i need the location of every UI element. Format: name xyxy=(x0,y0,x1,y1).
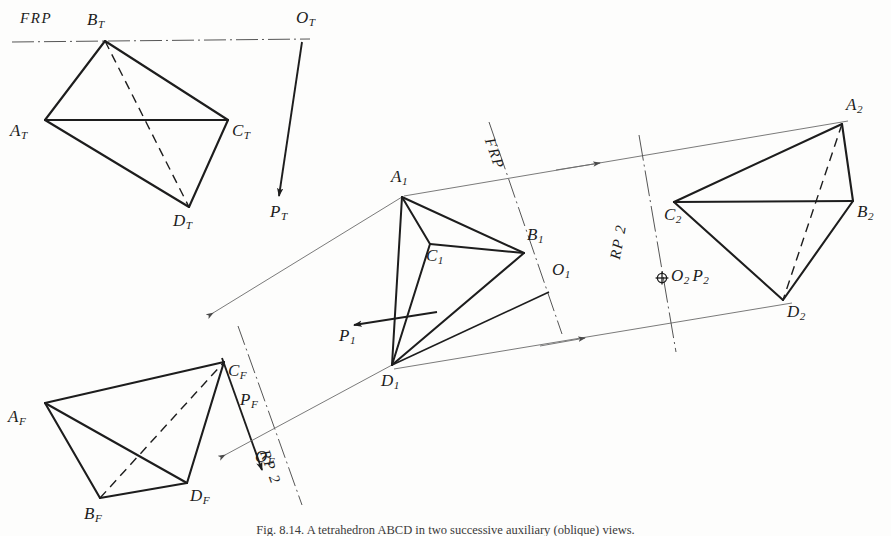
direction-label-O2-P2-aux2: O2P2 xyxy=(671,267,709,286)
vertex-label-B-aux2: B2 xyxy=(857,203,874,222)
direction-label-P-front: PF xyxy=(240,391,258,410)
direction-label-O-front: OF xyxy=(255,448,275,467)
edge-A2-D2-hidden xyxy=(783,124,842,300)
front-view-hidden xyxy=(100,362,224,498)
vertex-label-C-aux1: C1 xyxy=(426,247,443,266)
sight-lines-to-aux1 xyxy=(213,197,402,455)
edge-B2-D2 xyxy=(783,201,853,300)
edge-AF-CF xyxy=(45,362,224,403)
technical-drawing xyxy=(0,0,891,536)
direction-label-P-aux1: P1 xyxy=(339,327,356,346)
aux1-view-solid xyxy=(392,197,524,365)
sight-line-upper-to-A1 xyxy=(213,197,402,313)
vertex-label-A-top: AT xyxy=(10,122,27,141)
sight-line-upper-arrowhead xyxy=(556,163,600,170)
edge-CT-DT xyxy=(189,120,228,207)
direction-arrow-PT xyxy=(279,42,302,196)
edge-D1-B1 xyxy=(392,253,524,365)
reference-tick-O1 xyxy=(392,292,549,365)
vertex-label-D-top: DT xyxy=(173,212,192,231)
sight-line-lower-arrowhead xyxy=(540,338,585,346)
direction-label-O-top: OT xyxy=(296,9,315,28)
front-view-solid xyxy=(45,362,224,498)
vertex-label-A-aux1: A1 xyxy=(391,168,408,187)
direction-label-P-top: PT xyxy=(270,203,287,222)
vertex-label-B-front: BF xyxy=(84,505,102,524)
edge-AT-BT xyxy=(45,41,105,120)
vertex-label-B-aux1: B1 xyxy=(527,226,544,245)
fold-line-label-frp-top: FRP xyxy=(20,11,52,26)
edge-AF-BF xyxy=(45,403,100,498)
edge-BF-CF-hidden xyxy=(100,362,224,498)
vertex-label-D-front: DF xyxy=(190,487,210,506)
vertex-label-C-aux2: C2 xyxy=(664,206,681,225)
edge-AF-DF xyxy=(45,403,187,483)
vertex-label-D-aux2: D2 xyxy=(787,303,805,322)
top-view-solid xyxy=(45,41,228,207)
vertex-label-D-aux1: D1 xyxy=(381,372,399,391)
edge-A1-B1 xyxy=(402,197,524,253)
edge-C2-B2 xyxy=(674,201,853,202)
aux2-view-hidden xyxy=(783,124,842,300)
edge-BF-DF xyxy=(100,483,187,498)
edge-A2-B2 xyxy=(842,124,853,201)
point-symbol-O2P2 xyxy=(656,272,669,285)
vertex-label-B-top: BT xyxy=(87,11,104,30)
vertex-label-A-aux2: A2 xyxy=(846,96,863,115)
edge-C1-B1 xyxy=(430,244,524,253)
sight-line-upper-A1-A2 xyxy=(404,121,848,196)
vertex-label-C-top: CT xyxy=(232,122,250,141)
figure-canvas: AT BT CT DT AF BF CF DF A1 B1 C1 D1 A2 B… xyxy=(0,0,891,536)
edge-A2-C2 xyxy=(674,124,842,202)
fold-line-frp-top xyxy=(12,39,310,42)
figure-caption: Fig. 8.14. A tetrahedron ABCD in two suc… xyxy=(0,523,891,536)
vertex-label-A-front: AF xyxy=(8,408,26,427)
fold-line-rp2-aux2 xyxy=(639,135,676,352)
edge-BT-CT xyxy=(105,41,228,120)
direction-label-O-aux1: O1 xyxy=(552,261,570,280)
vertex-label-C-front: CF xyxy=(228,362,247,381)
edge-CF-DF xyxy=(187,362,224,483)
